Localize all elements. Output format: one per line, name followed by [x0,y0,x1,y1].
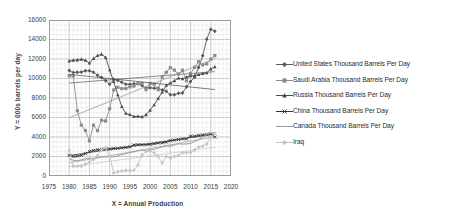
data-point-marker [201,144,205,148]
data-point-marker [88,160,92,164]
data-point-marker [92,124,95,127]
data-point-marker [177,76,181,79]
data-point-marker [71,71,75,75]
data-point-marker [282,78,286,82]
y-axis-title: Y = 000s barrels per day [14,37,21,147]
data-point-marker [128,169,132,173]
data-point-marker [120,105,124,108]
y-tick-label: 6000 [4,114,46,121]
data-point-marker [112,88,115,91]
data-point-marker [165,71,168,74]
y-tick-label: 16000 [4,17,46,24]
data-point-marker [67,69,71,73]
data-point-marker [189,151,193,155]
legend-item-3[interactable]: China Thousand Barrels Per Day [276,104,452,120]
x-axis-title: X = Annual Production [60,200,235,207]
data-point-marker [197,60,200,63]
data-point-marker [157,88,160,91]
y-tick-label: 2000 [4,153,46,160]
diamond-light-marker-icon [276,137,293,148]
data-point-marker [84,69,88,73]
legend-item-2[interactable]: Russia Thousand Barrels Per Day [276,88,452,104]
y-tick-label: 0 [4,173,46,180]
data-point-marker [282,62,287,67]
data-point-marker [75,164,79,168]
legend-label: Canada Thousand Barrels Per Day [293,123,394,130]
legend-item-5[interactable]: Iraq [276,135,452,151]
chart-container: 1600014000120001000080006000400020000 Y … [0,0,452,218]
y-tick-label: 4000 [4,134,46,141]
square-marker-icon [276,75,293,86]
x-axis-ticks: 1975198019851990199520002005201020152020 [0,180,452,194]
data-point-marker [161,75,164,78]
legend-item-1[interactable]: Saudi Arabia Thousand Barrels Per Day [276,73,452,89]
data-point-marker [209,27,213,31]
plot-svg [49,20,231,176]
data-point-marker [282,140,287,145]
cross-marker-icon [276,106,293,117]
data-point-marker [173,69,176,72]
data-point-marker [128,85,131,88]
plot-area [49,20,231,176]
y-tick-label: 10000 [4,75,46,82]
data-point-marker [88,69,92,73]
data-point-marker [84,129,87,132]
data-point-marker [148,86,152,90]
legend-label: Saudi Arabia Thousand Barrels Per Day [293,77,408,84]
y-tick-label: 8000 [4,95,46,102]
data-point-marker [144,88,147,91]
legend-label: Russia Thousand Barrels Per Day [293,92,391,99]
data-point-marker [213,65,217,68]
y-tick-label: 14000 [4,36,46,43]
data-point-marker [96,129,99,132]
data-point-marker [108,154,112,158]
legend-item-0[interactable]: United States Thousand Barrels Per Day [276,57,452,73]
legend-label: China Thousand Barrels Per Day [293,108,388,115]
data-point-marker [132,84,135,87]
data-point-marker [88,139,91,142]
data-point-marker [116,170,120,174]
data-point-marker [80,123,83,126]
data-point-marker [120,80,124,84]
data-point-marker [100,119,103,122]
line-marker-icon [276,121,293,132]
y-tick-label: 12000 [4,56,46,63]
data-point-marker [124,87,127,90]
data-point-marker [197,66,201,70]
data-point-marker [177,91,181,95]
legend-label: Iraq [293,139,304,146]
x-tick-label: 2020 [216,184,246,191]
data-point-marker [152,86,156,90]
data-point-marker [116,93,120,96]
data-point-marker [76,109,79,112]
data-point-marker [124,169,128,173]
gridlines [49,20,231,176]
data-point-marker [185,79,188,82]
data-point-marker [108,107,111,110]
data-point-marker [169,66,172,69]
legend-item-4[interactable]: Canada Thousand Barrels Per Day [276,119,452,135]
data-point-marker [173,155,177,159]
data-point-marker [124,82,128,86]
data-point-marker [173,79,177,82]
triangle-marker-icon [276,90,293,101]
diamond-marker-icon [276,59,293,70]
data-point-marker [116,86,119,89]
data-point-marker [136,82,139,85]
data-point-marker [205,37,209,41]
data-point-marker [120,87,123,90]
data-point-marker [112,171,116,175]
legend-label: United States Thousand Barrels Per Day [293,61,410,68]
data-point-marker [213,54,216,57]
chart-legend: United States Thousand Barrels Per DaySa… [276,57,452,150]
data-point-marker [120,169,124,173]
data-point-marker [104,119,107,122]
